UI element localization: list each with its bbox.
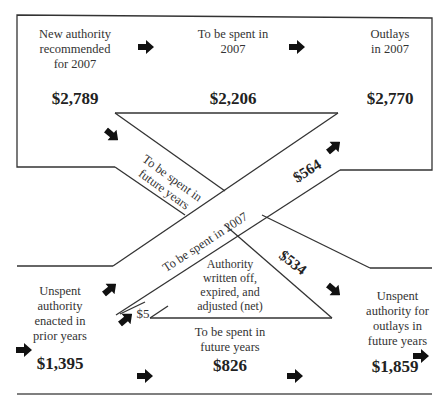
written-off-label: Authority written off, expired, and adju… bbox=[180, 257, 280, 313]
arrow-right-icon bbox=[16, 343, 32, 357]
outlays-2007-label: Outlays in 2007 bbox=[350, 27, 430, 57]
spent-future-amount: $826 bbox=[180, 356, 280, 376]
spent-2007-label: To be spent in 2007 bbox=[178, 27, 288, 57]
arrow-right-icon bbox=[413, 349, 429, 363]
new-authority-label: New authority recommended for 2007 bbox=[20, 27, 130, 72]
arrow-right-icon bbox=[137, 369, 153, 383]
unspent-future-label: Unspent authority for outlays in future … bbox=[350, 289, 445, 349]
unspent-prior-label: Unspent authority enacted in prior years bbox=[20, 284, 100, 344]
spent-2007-amount: $2,206 bbox=[178, 89, 288, 109]
arrow-right-icon bbox=[287, 369, 303, 383]
new-authority-amount: $2,789 bbox=[20, 89, 130, 109]
unspent-prior-amount: $1,395 bbox=[20, 354, 100, 374]
spent-future-label: To be spent in future years bbox=[180, 325, 280, 355]
arrow-right-icon bbox=[138, 40, 154, 54]
outlays-2007-amount: $2,770 bbox=[345, 89, 435, 109]
arrow-right-icon bbox=[289, 40, 305, 54]
